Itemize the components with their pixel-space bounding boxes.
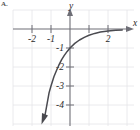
ytick-label-neg1: -1 xyxy=(56,43,64,53)
ytick-label-neg4: -4 xyxy=(56,100,64,110)
exponential-decay-plot: -2 -1 2 -1 -2 -3 -4 x y xyxy=(0,0,140,130)
curve-end-arrowhead xyxy=(42,113,49,125)
x-axis xyxy=(13,26,134,32)
ytick-label-neg3: -3 xyxy=(56,81,64,91)
xtick-label-2: 2 xyxy=(106,34,111,44)
xtick-label-neg1: -1 xyxy=(47,34,55,44)
y-axis-label: y xyxy=(68,1,74,11)
curve-exponential-decay xyxy=(42,30,123,125)
x-axis-label: x xyxy=(132,18,138,28)
xtick-label-neg2: -2 xyxy=(28,34,36,44)
figure-container: A. xyxy=(0,0,140,130)
